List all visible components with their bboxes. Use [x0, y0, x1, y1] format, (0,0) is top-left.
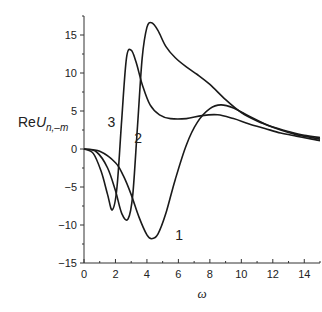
curve-label-1: 1: [175, 227, 183, 243]
x-tick-label: 6: [175, 268, 181, 280]
y-tick-label: 15: [65, 29, 77, 41]
y-tick-label: −15: [58, 257, 77, 269]
curve-label-3: 3: [108, 114, 116, 130]
curves: [84, 22, 320, 238]
curve-label-2: 2: [134, 130, 142, 146]
axes: −15−10−505101502468101214: [58, 16, 320, 280]
y-tick-label: 10: [65, 67, 77, 79]
y-tick-label: −5: [64, 181, 77, 193]
y-tick-label: −10: [58, 219, 77, 231]
y-label-prefix: Re: [18, 114, 36, 130]
x-tick-label: 2: [112, 268, 118, 280]
x-tick-label: 10: [235, 268, 247, 280]
y-axis-label: ReUn,–m: [18, 114, 68, 133]
y-tick-label: 5: [71, 105, 77, 117]
curve-labels: 123: [108, 114, 184, 242]
y-tick-label: 0: [71, 143, 77, 155]
x-tick-label: 0: [81, 268, 87, 280]
x-tick-label: 4: [144, 268, 150, 280]
line-chart: −15−10−505101502468101214 123 ω ReUn,–m: [0, 0, 322, 312]
x-tick-label: 12: [267, 268, 279, 280]
x-tick-label: 14: [298, 268, 310, 280]
curve-2: [84, 22, 320, 220]
x-tick-label: 8: [207, 268, 213, 280]
curve-1: [84, 105, 320, 239]
x-axis-label: ω: [197, 286, 206, 301]
y-label-sub: n,–m: [46, 122, 68, 133]
